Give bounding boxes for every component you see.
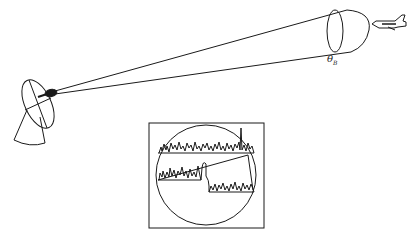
upper-trace <box>159 128 254 153</box>
radar-dish-icon <box>15 75 61 133</box>
feed-horn-icon <box>38 88 58 97</box>
beam-angle-label: θB <box>327 53 337 66</box>
radar-beam <box>55 10 369 94</box>
jet-aircraft-icon <box>372 15 406 30</box>
radar-scope <box>149 123 264 228</box>
theta-subscript: B <box>333 59 337 66</box>
radar-diagram <box>0 0 411 233</box>
sweep-line <box>158 155 248 180</box>
lower-right-trace <box>209 182 254 192</box>
